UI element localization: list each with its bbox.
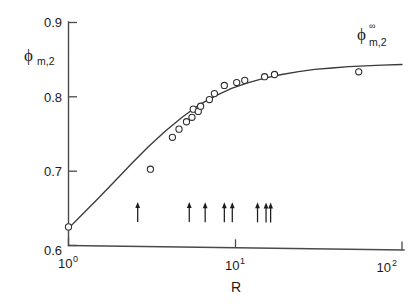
x-tick-label-mantissa-0: 10 — [58, 256, 72, 271]
y-ticks-group — [69, 23, 78, 246]
y-axis-title-symbol: ϕ — [24, 46, 33, 65]
x-tick-label-exponent-1: 1 — [240, 256, 245, 266]
data-point — [211, 91, 217, 97]
x-axis-title: R — [231, 279, 241, 295]
arrow-head — [255, 202, 260, 208]
y-axis-title-subscript: m,2 — [37, 55, 55, 67]
y-tick-labels-group: 0.9 0.8 0.7 0.6 — [44, 15, 62, 258]
arrow-head — [268, 202, 273, 208]
data-point — [356, 69, 362, 75]
data-point — [221, 82, 227, 88]
arrow-head — [203, 202, 208, 208]
tick-arrow — [203, 202, 208, 222]
arrow-head — [135, 202, 140, 208]
asymptote-label-subscript: m,2 — [369, 36, 387, 48]
data-point — [271, 71, 277, 77]
arrow-head — [264, 202, 269, 208]
axes-group — [69, 22, 405, 250]
data-point — [169, 134, 175, 140]
tick-arrows-group — [135, 202, 273, 222]
arrow-head — [230, 202, 235, 208]
x-tick-label-mantissa-1: 10 — [225, 258, 239, 273]
data-point — [147, 166, 153, 172]
arrow-head — [222, 202, 227, 208]
data-point — [234, 79, 240, 85]
fitted-curve-group — [69, 65, 403, 229]
tick-arrow — [187, 202, 192, 222]
tick-arrow — [135, 202, 140, 222]
data-markers-group — [65, 69, 361, 230]
y-tick-label-1: 0.8 — [44, 90, 62, 105]
data-point — [183, 119, 189, 125]
x-tick-label-mantissa-2: 10 — [377, 260, 391, 275]
x-tick-label-exponent-2: 2 — [392, 258, 397, 268]
y-tick-label-0: 0.9 — [44, 15, 62, 30]
x-tick-label-1e2: 10 2 — [377, 258, 397, 275]
asymptote-label-superscript: ∞ — [369, 21, 375, 31]
data-point — [65, 224, 71, 230]
y-tick-label-2: 0.7 — [44, 164, 62, 179]
data-point — [176, 126, 182, 132]
asymptote-label: ϕ ∞ m,2 — [357, 21, 387, 48]
y-axis-title: ϕ m,2 — [24, 46, 55, 67]
arrow-head — [187, 202, 192, 208]
x-tick-label-1e0: 10 0 — [58, 254, 78, 271]
asymptote-label-symbol: ϕ — [357, 25, 366, 44]
data-point — [198, 103, 204, 109]
tick-arrow — [264, 202, 269, 222]
tick-arrow — [230, 202, 235, 222]
tick-arrow — [222, 202, 227, 222]
tick-arrow — [268, 202, 273, 222]
figure-container: 0.9 0.8 0.7 0.6 10 0 10 1 10 2 — [0, 0, 412, 304]
data-point — [262, 74, 268, 80]
data-point — [206, 96, 212, 102]
x-tick-labels-group: 10 0 10 1 10 2 — [58, 254, 397, 275]
tick-arrow — [255, 202, 260, 222]
data-point — [189, 114, 195, 120]
x-axis-spine — [69, 246, 405, 251]
chart-svg: 0.9 0.8 0.7 0.6 10 0 10 1 10 2 — [0, 0, 412, 304]
data-point — [242, 77, 248, 83]
x-tick-label-1e1: 10 1 — [225, 256, 245, 273]
x-tick-label-exponent-0: 0 — [73, 254, 78, 264]
fitted-curve — [69, 65, 403, 229]
